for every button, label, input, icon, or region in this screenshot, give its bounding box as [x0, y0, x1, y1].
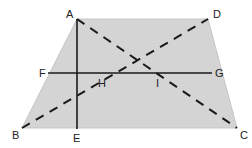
label-f: F	[39, 67, 46, 79]
label-e: E	[73, 132, 80, 144]
label-d: D	[213, 8, 221, 20]
label-h: H	[98, 77, 106, 89]
label-g: G	[215, 67, 224, 79]
trapezoid-diagram: A D B C E F G H I	[0, 0, 252, 148]
label-c: C	[240, 129, 248, 141]
label-a: A	[66, 8, 74, 20]
label-b: B	[12, 129, 19, 141]
label-i: I	[156, 77, 159, 89]
